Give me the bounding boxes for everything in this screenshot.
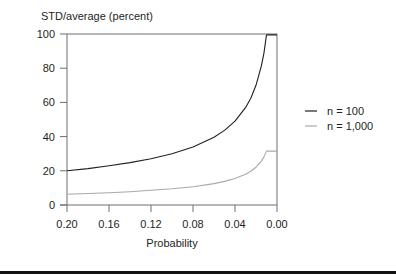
y-axis-ticks: 020406080100 bbox=[37, 28, 67, 211]
series-line-0 bbox=[67, 35, 277, 171]
y-tick-label: 100 bbox=[37, 28, 55, 40]
series-lines bbox=[67, 35, 277, 194]
x-axis-ticks: 0.200.160.120.080.040.00 bbox=[56, 205, 287, 230]
y-tick-label: 20 bbox=[43, 165, 55, 177]
legend: n = 100n = 1,000 bbox=[305, 105, 373, 132]
x-tick-label: 0.04 bbox=[224, 218, 245, 230]
x-tick-label: 0.12 bbox=[140, 218, 161, 230]
legend-label: n = 100 bbox=[327, 105, 364, 117]
y-tick-label: 0 bbox=[49, 199, 55, 211]
series-line-1 bbox=[67, 151, 277, 194]
y-tick-label: 60 bbox=[43, 96, 55, 108]
y-tick-label: 40 bbox=[43, 131, 55, 143]
x-tick-label: 0.20 bbox=[56, 218, 77, 230]
bottom-divider bbox=[0, 271, 396, 274]
x-tick-label: 0.08 bbox=[182, 218, 203, 230]
line-chart: STD/average (percent) 020406080100 0.200… bbox=[0, 0, 396, 276]
y-tick-label: 80 bbox=[43, 62, 55, 74]
plot-frame bbox=[60, 34, 277, 205]
legend-label: n = 1,000 bbox=[327, 120, 373, 132]
chart-title: STD/average (percent) bbox=[41, 10, 153, 22]
x-tick-label: 0.16 bbox=[98, 218, 119, 230]
x-tick-label: 0.00 bbox=[266, 218, 287, 230]
x-axis-label: Probability bbox=[146, 237, 198, 249]
